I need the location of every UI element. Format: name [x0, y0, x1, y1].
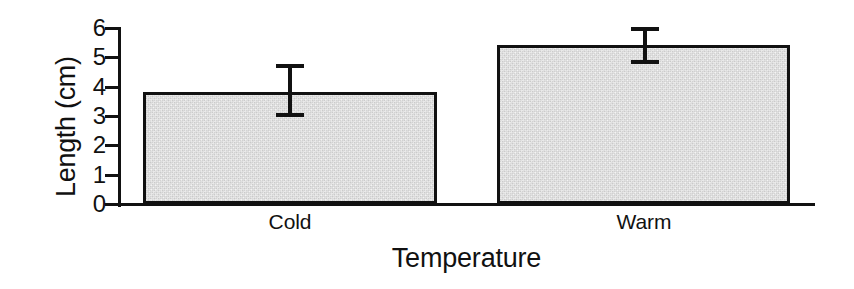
error-bar-cap-lower-cold	[276, 113, 304, 117]
y-axis-spine	[118, 27, 121, 207]
y-tick-label-3: 3	[72, 104, 106, 128]
y-tick-label-2: 2	[72, 133, 106, 157]
y-tick-label-4: 4	[72, 75, 106, 99]
y-tick-label-1: 1	[72, 163, 106, 187]
x-tick-label-warm: Warm	[544, 211, 744, 232]
error-bar-stem-warm	[643, 27, 647, 64]
error-bar-cap-upper-warm	[631, 27, 659, 31]
y-tick-label-5: 5	[72, 45, 106, 69]
x-axis-title: Temperature	[118, 243, 815, 274]
error-bar-stem-cold	[288, 64, 292, 117]
x-tick-label-cold: Cold	[190, 211, 390, 232]
error-bar-cap-upper-cold	[276, 64, 304, 68]
y-tick-label-0: 0	[72, 192, 106, 216]
bar-warm	[497, 45, 790, 204]
y-tick-label-6: 6	[72, 16, 106, 40]
bar-chart-figure: Length (cm) 6 5 4 3 2 1 0 Cold Warm Temp…	[0, 0, 854, 289]
error-bar-cap-lower-warm	[631, 60, 659, 64]
